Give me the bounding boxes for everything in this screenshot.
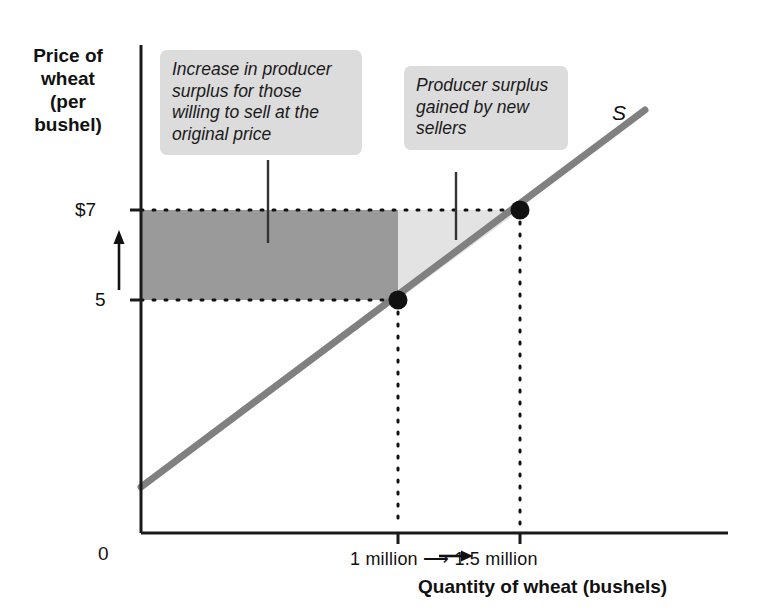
supply-curve-label: S — [612, 101, 626, 125]
callout-existing-seller-surplus: Increase in producer surplus for those w… — [160, 50, 362, 155]
x-tick-labels: 1 million ⟶ 1.5 million — [350, 548, 538, 570]
region-new-seller-surplus — [398, 210, 520, 300]
origin-label: 0 — [98, 543, 109, 565]
y-tick-label-5: 5 — [95, 289, 106, 311]
region-existing-seller-surplus — [141, 210, 398, 300]
y-tick-label-7: $7 — [75, 199, 96, 221]
marker-new-equilibrium — [511, 201, 530, 220]
x-axis-title: Quantity of wheat (bushels) — [418, 575, 667, 598]
callout-new-seller-surplus: Producer surplus gained by new sellers — [404, 66, 568, 150]
producer-surplus-chart: Price of wheat (per bushel) Quantity of … — [0, 0, 763, 611]
y-axis-title: Price of wheat (per bushel) — [14, 44, 122, 136]
price-increase-arrow-icon — [114, 230, 125, 290]
marker-original-equilibrium — [389, 291, 408, 310]
